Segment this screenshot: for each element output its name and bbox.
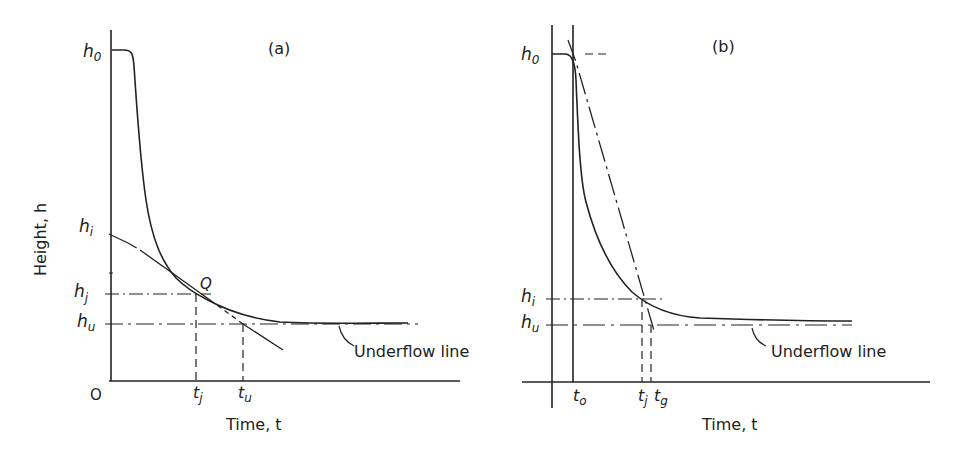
b-panel-title: (b) <box>712 37 735 56</box>
a-y-axis-label: Height, h <box>31 203 50 276</box>
a-h0-label: h0 <box>83 41 102 64</box>
a-underflow-label: Underflow line <box>354 342 469 361</box>
b-tg-label: tg <box>654 386 668 408</box>
b-h0-label: h0 <box>521 44 540 67</box>
a-hj-label: hj <box>74 281 89 305</box>
a-x-axis-label: Time, t <box>225 415 282 434</box>
b-underflow-pointer <box>752 328 766 346</box>
a-tj-label: tj <box>193 383 203 405</box>
b-underflow-label: Underflow line <box>771 342 886 361</box>
b-x-axis-label: Time, t <box>701 415 758 434</box>
b-hi-label: hi <box>521 286 536 309</box>
b-construction-line <box>568 40 655 334</box>
a-point-q-label: Q <box>200 275 212 293</box>
a-hu-label: hu <box>77 311 96 334</box>
panel-a <box>105 30 460 381</box>
a-panel-title: (a) <box>268 39 290 58</box>
b-tj-label: tj <box>638 386 648 408</box>
a-hi-label: hi <box>79 216 94 239</box>
settling-curves-figure: (a) Height, h Time, t O h0 hi hj hu tj t… <box>0 0 974 457</box>
a-underflow-pointer <box>339 326 354 346</box>
b-hu-label: hu <box>521 312 540 335</box>
a-tu-label: tu <box>238 383 252 405</box>
b-to-label: to <box>573 386 587 408</box>
b-settling-curve <box>552 54 852 321</box>
a-tangent-line <box>109 234 128 243</box>
a-settling-curve <box>112 50 408 323</box>
a-origin-label: O <box>90 386 102 404</box>
